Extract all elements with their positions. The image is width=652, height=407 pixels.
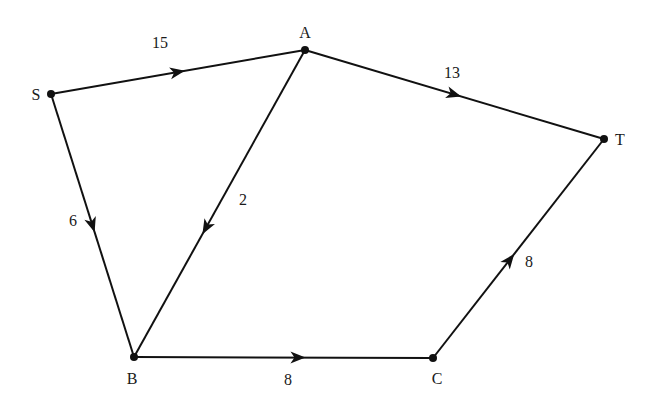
labels-layer: 15132688SATBC — [32, 24, 626, 388]
edge-weight-label: 15 — [152, 34, 168, 51]
arrowhead-icon — [84, 216, 100, 234]
edge-weight-label: 6 — [69, 212, 77, 229]
node-label-t: T — [615, 131, 625, 148]
node-t — [600, 135, 608, 143]
edge-line — [134, 357, 433, 358]
node-s — [47, 90, 55, 98]
edge-b-c — [134, 352, 433, 364]
node-c — [429, 354, 437, 362]
edge-weight-label: 8 — [525, 253, 533, 270]
arrowhead-icon — [169, 65, 186, 79]
node-b — [130, 353, 138, 361]
edge-weight-label: 2 — [239, 191, 247, 208]
edge-line — [433, 139, 604, 358]
edge-weight-label: 13 — [444, 64, 460, 81]
node-label-b: B — [127, 370, 138, 387]
arrowhead-icon — [445, 86, 463, 102]
arrowhead-icon — [197, 218, 215, 237]
node-label-c: C — [432, 370, 443, 387]
node-a — [301, 46, 309, 54]
edge-s-b — [51, 94, 134, 357]
nodes-layer — [47, 46, 608, 362]
edge-s-a — [51, 50, 305, 94]
arrowhead-icon — [500, 250, 519, 269]
edge-c-t — [433, 139, 604, 358]
graph-diagram: 15132688SATBC — [0, 0, 652, 407]
edge-a-b — [134, 50, 305, 357]
edges-layer — [51, 50, 604, 364]
edge-line — [134, 50, 305, 357]
node-label-a: A — [299, 24, 311, 41]
node-label-s: S — [32, 86, 41, 103]
edge-weight-label: 8 — [284, 371, 292, 388]
